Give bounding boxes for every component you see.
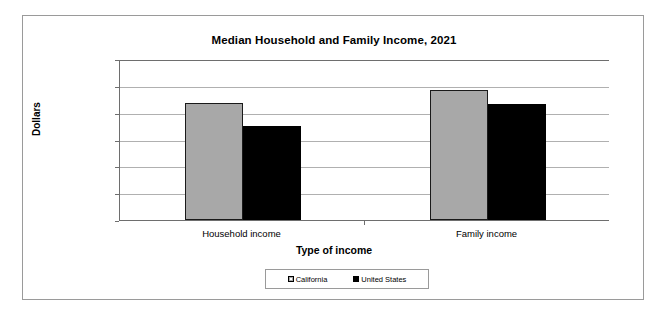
x-axis-title: Type of income bbox=[23, 244, 645, 256]
legend-label: California bbox=[296, 275, 328, 284]
gridline bbox=[120, 87, 609, 88]
chart-legend: CaliforniaUnited States bbox=[265, 269, 429, 289]
legend-swatch-icon bbox=[353, 276, 359, 282]
legend-entry-united-states: United States bbox=[353, 275, 406, 284]
legend-entry-california: California bbox=[288, 275, 328, 284]
bar-california-household-income bbox=[185, 103, 243, 220]
y-axis-title: Dollars bbox=[31, 102, 42, 136]
legend-label: United States bbox=[361, 275, 406, 284]
x-axis-category-label: Household income bbox=[202, 228, 281, 239]
bar-united-states-family-income bbox=[488, 104, 546, 220]
y-axis-tick-mark bbox=[115, 221, 119, 222]
chart-title: Median Household and Family Income, 2021 bbox=[23, 34, 645, 46]
gridline bbox=[120, 60, 609, 61]
bar-california-family-income bbox=[430, 90, 488, 220]
x-axis-tick-mark bbox=[364, 221, 365, 225]
plot-area bbox=[119, 60, 609, 221]
x-axis-category-label: Family income bbox=[456, 228, 517, 239]
bar-united-states-household-income bbox=[243, 126, 301, 220]
chart-frame: Median Household and Family Income, 2021… bbox=[22, 15, 644, 300]
legend-swatch-icon bbox=[288, 276, 294, 282]
